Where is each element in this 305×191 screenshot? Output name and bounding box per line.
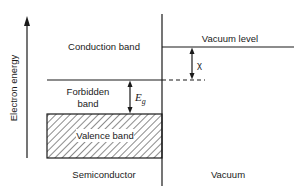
band-gap-label: Eg bbox=[134, 91, 146, 106]
vacuum-level-label: Vacuum level bbox=[202, 33, 258, 44]
vacuum-label: Vacuum bbox=[211, 169, 245, 180]
arrow-up-icon bbox=[128, 81, 133, 88]
arrow-down-icon bbox=[128, 107, 133, 114]
arrow-down-icon bbox=[190, 73, 195, 80]
forbidden-band-label-line1: Forbidden bbox=[67, 86, 110, 97]
energy-axis-label: Electron energy bbox=[8, 54, 19, 121]
forbidden-band-label-line2: band bbox=[77, 98, 98, 109]
energy-axis: Electron energy bbox=[8, 16, 30, 158]
band-gap-arrow bbox=[128, 81, 133, 114]
energy-axis-arrow-icon bbox=[24, 16, 30, 26]
electron-affinity-arrow bbox=[190, 48, 195, 80]
conduction-band-label: Conduction band bbox=[68, 41, 140, 52]
semiconductor-label: Semiconductor bbox=[72, 169, 135, 180]
valence-band-label: Valence band bbox=[76, 130, 133, 141]
electron-affinity-label: χ bbox=[197, 59, 202, 70]
band-diagram: Electron energy Conduction band Forbidde… bbox=[0, 0, 305, 191]
arrow-up-icon bbox=[190, 48, 195, 55]
